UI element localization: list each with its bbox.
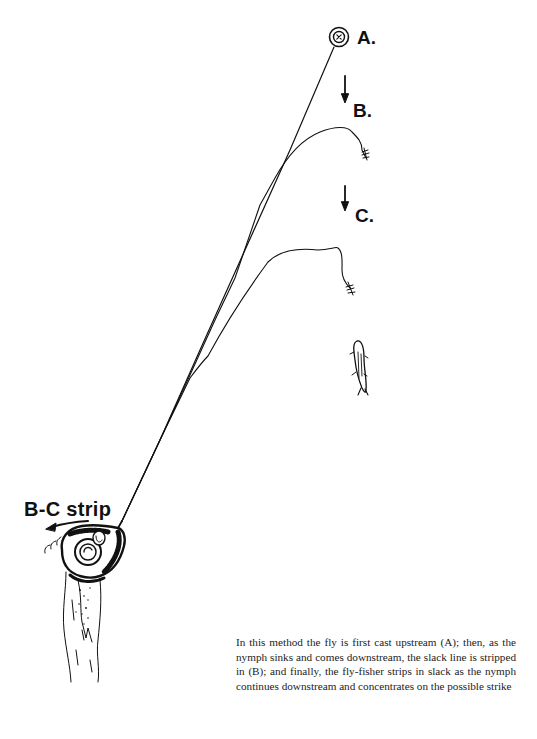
- fly-line-b: [122, 128, 366, 522]
- figure-caption: In this method the fly is first cast ups…: [236, 635, 516, 693]
- fly-line-c: [122, 247, 350, 521]
- position-label-b: B.: [353, 101, 372, 120]
- nymph-fly-icon: [346, 282, 355, 295]
- strip-label: B-C strip: [24, 499, 111, 519]
- arm-sleeve: [63, 572, 100, 682]
- diagram-canvas: [0, 0, 537, 739]
- position-label-c: C.: [355, 206, 374, 225]
- fish-icon: [350, 341, 368, 395]
- sleeve-shading: [75, 587, 90, 624]
- fly-line-a: [122, 47, 334, 521]
- water-ripple-icon: [45, 537, 61, 553]
- arrow-down-icon: [342, 76, 349, 103]
- arrow-down-icon: [342, 186, 349, 211]
- target-circle-icon: [330, 28, 349, 47]
- position-label-a: A.: [357, 28, 376, 47]
- reel-icon: [62, 521, 125, 582]
